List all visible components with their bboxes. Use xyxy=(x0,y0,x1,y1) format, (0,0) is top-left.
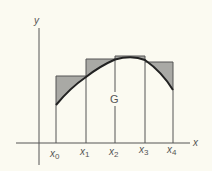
tick-label-x0: x0 xyxy=(49,148,60,161)
tick-label-x3: x3 xyxy=(138,144,149,157)
tick-label-x4: x4 xyxy=(166,144,177,157)
region-label: G xyxy=(110,93,119,105)
shaded-region-4 xyxy=(145,60,173,90)
tick-labels: x0 x1 x2 x3 x4 xyxy=(49,144,177,161)
tick-label-x1: x1 xyxy=(79,146,90,159)
tick-label-x2: x2 xyxy=(108,146,119,159)
y-axis-label: y xyxy=(33,15,40,26)
integral-diagram: y x G x0 x1 x2 x3 x4 xyxy=(0,0,212,171)
diagram-canvas: y x G x0 x1 x2 x3 x4 xyxy=(0,0,212,171)
x-axis-label: x xyxy=(192,137,199,148)
